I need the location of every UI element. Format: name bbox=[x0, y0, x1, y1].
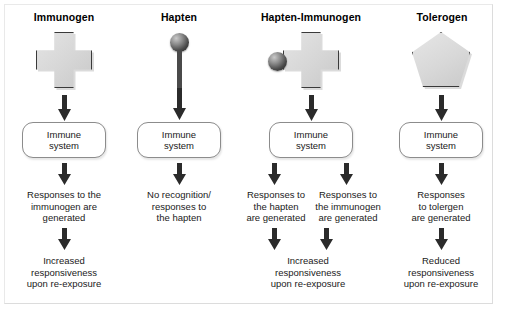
immune-system-box: Immune system bbox=[137, 122, 221, 158]
column-heading-tolerogen: Tolerogen bbox=[388, 11, 496, 23]
immune-system-label: Immune system bbox=[294, 129, 328, 152]
arrow-down-icon bbox=[339, 163, 354, 185]
arrow-down-icon bbox=[434, 163, 449, 185]
column-heading-immunogen: Immunogen bbox=[4, 11, 124, 23]
arrow-down-icon bbox=[57, 228, 72, 250]
column-immunogen: Immunogen Immune system Responses to the… bbox=[4, 0, 124, 316]
arrow-down-icon bbox=[304, 95, 319, 121]
outcome-text: Reduced responsiveness upon re-exposure bbox=[382, 255, 500, 290]
arrow-down-icon bbox=[172, 88, 187, 120]
cross-icon bbox=[36, 32, 92, 88]
outcome-text: Increased responsiveness upon re-exposur… bbox=[6, 255, 122, 290]
arrow-down-icon bbox=[434, 95, 449, 121]
arrow-down-icon bbox=[434, 228, 449, 250]
arrow-down-icon bbox=[267, 163, 282, 185]
arrow-down-icon bbox=[319, 228, 334, 250]
antigen-hapten-immunogen bbox=[234, 30, 388, 94]
column-heading-hapten-immunogen: Hapten-Immunogen bbox=[234, 11, 388, 23]
immune-system-label: Immune system bbox=[162, 129, 196, 152]
arrow-down-icon bbox=[172, 163, 187, 185]
immune-system-box: Immune system bbox=[269, 122, 353, 158]
antigen-immunogen bbox=[4, 30, 124, 94]
immune-system-label: Immune system bbox=[424, 129, 458, 152]
pentagon-icon bbox=[412, 32, 470, 87]
response-text: Responses to the immunogen are generated bbox=[6, 189, 122, 224]
sphere-icon bbox=[268, 52, 287, 71]
response-text: No recognition/ responses to the hapten bbox=[124, 189, 234, 224]
outcome-text: Increased responsiveness upon re-exposur… bbox=[244, 255, 372, 290]
arrow-down-icon bbox=[267, 228, 282, 250]
column-hapten: Hapten Immune system No recognition/ res… bbox=[124, 0, 234, 316]
antigen-hapten bbox=[124, 30, 234, 94]
antigen-tolerogen bbox=[388, 30, 506, 94]
column-tolerogen: Tolerogen Immune system Responses to tol… bbox=[388, 0, 506, 316]
immune-system-label: Immune system bbox=[47, 129, 81, 152]
arrow-down-icon bbox=[57, 95, 72, 121]
column-hapten-immunogen: Hapten-Immunogen Immune system Responses… bbox=[234, 0, 388, 316]
column-heading-hapten: Hapten bbox=[124, 11, 234, 23]
arrow-down-icon bbox=[57, 163, 72, 185]
stem-icon bbox=[177, 50, 182, 88]
immune-system-box: Immune system bbox=[22, 122, 106, 158]
response-text-immunogen: Responses to the immunogen are generated bbox=[302, 189, 394, 224]
response-text: Responses to tolergen are generated bbox=[382, 189, 500, 224]
cross-icon bbox=[283, 32, 339, 88]
immunology-diagram: Immunogen Immune system Responses to the… bbox=[0, 0, 510, 316]
immune-system-box: Immune system bbox=[399, 122, 483, 158]
